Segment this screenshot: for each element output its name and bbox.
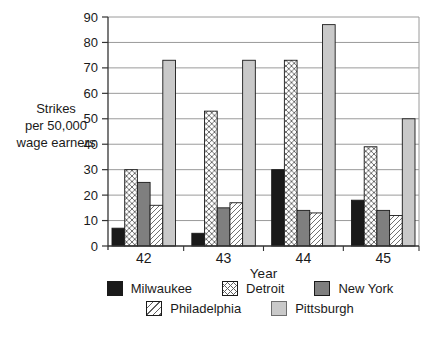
x-axis-label: Year	[250, 266, 278, 281]
legend-label-milwaukee: Milwaukee	[131, 281, 192, 296]
legend-item-pittsburgh: Pittsburgh	[271, 301, 354, 316]
y-axis-label-line: wage earners	[16, 135, 96, 150]
legend-item-new-york: New York	[314, 281, 393, 296]
y-tick-label: 10	[84, 213, 98, 228]
y-axis-label-line: per 50,000	[25, 118, 87, 133]
bar-pittsburgh-45	[402, 119, 415, 246]
bar-new-york-45	[377, 210, 390, 246]
legend-item-philadelphia: Philadelphia	[146, 301, 241, 316]
bar-detroit-44	[284, 60, 297, 246]
legend-swatch-new-york	[314, 281, 330, 296]
bar-milwaukee-44	[272, 170, 285, 246]
y-tick-label: 0	[91, 239, 98, 254]
y-tick-label: 20	[84, 188, 98, 203]
bar-philadelphia-42	[150, 205, 163, 246]
legend-label-new-york: New York	[338, 281, 393, 296]
legend-item-milwaukee: Milwaukee	[107, 281, 192, 296]
y-tick-label: 60	[84, 86, 98, 101]
legend-label-pittsburgh: Pittsburgh	[295, 301, 354, 316]
bar-philadelphia-44	[310, 213, 323, 246]
legend-label-philadelphia: Philadelphia	[170, 301, 241, 316]
x-tick-label: 43	[216, 250, 232, 266]
legend-item-detroit: Detroit	[222, 281, 284, 296]
bar-new-york-44	[297, 210, 310, 246]
legend-label-detroit: Detroit	[246, 281, 284, 296]
bar-philadelphia-43	[230, 203, 243, 246]
bar-milwaukee-42	[112, 228, 125, 246]
legend-swatch-milwaukee	[107, 281, 123, 296]
legend-row-2: Philadelphia Pittsburgh	[146, 301, 353, 316]
legend-row-1: Milwaukee Detroit New York	[107, 281, 394, 296]
y-tick-label: 70	[84, 60, 98, 75]
x-tick-label: 45	[376, 250, 392, 266]
bar-new-york-42	[137, 182, 150, 246]
y-tick-label: 90	[84, 10, 98, 25]
x-tick-label: 44	[296, 250, 312, 266]
bar-detroit-45	[364, 147, 377, 246]
chart-legend: Milwaukee Detroit New York Philadelphia …	[70, 281, 430, 316]
y-tick-label: 30	[84, 162, 98, 177]
legend-swatch-pittsburgh	[271, 301, 287, 316]
bar-pittsburgh-42	[163, 60, 176, 246]
strikes-bar-chart: 010203040506070809042434445YearStrikespe…	[0, 0, 430, 281]
bar-detroit-42	[125, 170, 138, 246]
bar-milwaukee-43	[192, 233, 205, 246]
legend-swatch-detroit	[222, 281, 238, 296]
bar-philadelphia-45	[390, 215, 403, 246]
x-tick-label: 42	[136, 250, 152, 266]
bar-pittsburgh-44	[322, 25, 335, 246]
legend-swatch-philadelphia	[146, 301, 162, 316]
y-axis-label-line: Strikes	[36, 101, 76, 116]
bar-detroit-43	[205, 111, 218, 246]
bar-milwaukee-45	[352, 200, 365, 246]
bar-pittsburgh-43	[243, 60, 256, 246]
bar-new-york-43	[217, 208, 230, 246]
strikes-chart-page: 010203040506070809042434445YearStrikespe…	[0, 0, 430, 340]
y-tick-label: 80	[84, 35, 98, 50]
